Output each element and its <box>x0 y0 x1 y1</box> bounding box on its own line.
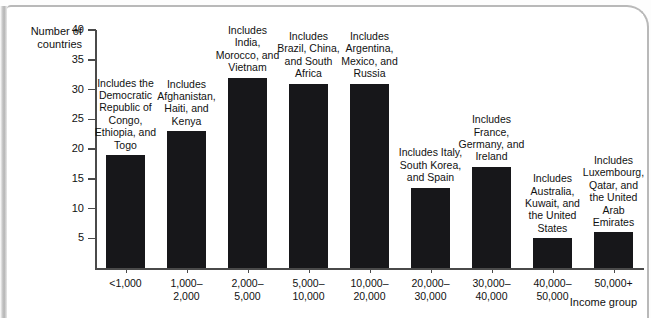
bar-annotation: Includes Italy, South Korea, and Spain <box>397 146 463 183</box>
x-axis-tick-label-line2: 5,000 <box>217 290 278 303</box>
x-axis-tick <box>126 268 128 273</box>
bar[interactable] <box>167 131 205 268</box>
bar[interactable] <box>472 167 510 268</box>
bar-annotation: Includes Argentina, Mexico, and Russia <box>336 30 402 80</box>
bar-chart: Number of countries 403530252015105 Incl… <box>0 0 651 318</box>
bar-annotation: Includes India, Morocco, and Vietnam <box>214 24 280 74</box>
x-axis-tick-label-line2: 30,000 <box>400 290 461 303</box>
x-axis-tick-label: 30,000–40,000 <box>461 277 522 302</box>
bar-annotation: Includes Australia, Kuwait, and the Unit… <box>519 172 585 234</box>
bar-group[interactable]: Includes Brazil, China, and South Africa <box>289 0 327 268</box>
y-axis-tick-label: 15 <box>58 173 84 184</box>
bar[interactable] <box>411 188 449 268</box>
x-axis-tick <box>248 268 250 273</box>
x-axis-tick <box>614 268 616 273</box>
x-axis-tick <box>309 268 311 273</box>
y-axis-tick-label: 5 <box>58 232 84 243</box>
y-axis-tick-label: 25 <box>58 113 84 124</box>
page-background: Number of countries 403530252015105 Incl… <box>0 0 651 318</box>
bar[interactable] <box>289 84 327 268</box>
bar[interactable] <box>228 78 266 268</box>
x-axis-tick-label: 2,000–5,000 <box>217 277 278 302</box>
x-axis-tick-label-line1: 30,000– <box>461 277 522 290</box>
x-axis-tick-label-line2: 10,000 <box>278 290 339 303</box>
x-axis-tick-label-line2: 2,000 <box>156 290 217 303</box>
bar-annotation: Includes Afghanistan, Haiti, and Kenya <box>153 78 219 128</box>
x-axis-tick <box>187 268 189 273</box>
bar-group[interactable]: Includes India, Morocco, and Vietnam <box>228 0 266 268</box>
bar-annotation: Includes the Democratic Republic of Cong… <box>92 77 158 151</box>
x-axis-tick <box>431 268 433 273</box>
bars-container: Includes the Democratic Republic of Cong… <box>95 30 644 268</box>
bar-annotation: Includes Luxembourg, Qatar, and the Unit… <box>580 154 646 228</box>
x-axis-tick-label: 10,000–20,000 <box>339 277 400 302</box>
bar-group[interactable]: Includes Argentina, Mexico, and Russia <box>350 0 388 268</box>
x-axis-title: Income group <box>570 296 637 308</box>
y-axis-tick-label: 20 <box>58 143 84 154</box>
x-axis-tick <box>553 268 555 273</box>
bar-group[interactable]: Includes the Democratic Republic of Cong… <box>106 0 144 268</box>
bar[interactable] <box>106 155 144 268</box>
y-axis-tick-label: 10 <box>58 203 84 214</box>
x-axis-tick <box>370 268 372 273</box>
bar[interactable] <box>533 238 571 268</box>
x-axis-tick-label-line1: 2,000– <box>217 277 278 290</box>
x-axis-tick-label: 20,000–30,000 <box>400 277 461 302</box>
bar-annotation: Includes France, Germany, and Ireland <box>458 113 524 163</box>
bar[interactable] <box>594 232 632 268</box>
y-axis-title-line2: countries <box>8 38 82 51</box>
x-axis-tick-label: 5,000–10,000 <box>278 277 339 302</box>
bar-group[interactable]: Includes Luxembourg, Qatar, and the Unit… <box>594 0 632 268</box>
x-axis-tick-label-line1: 10,000– <box>339 277 400 290</box>
x-axis-tick-label-line1: 20,000– <box>400 277 461 290</box>
y-axis-tick-label: 35 <box>58 54 84 65</box>
bar-group[interactable]: Includes Italy, South Korea, and Spain <box>411 0 449 268</box>
bar-annotation: Includes Brazil, China, and South Africa <box>275 30 341 80</box>
y-axis-tick-label: 30 <box>58 84 84 95</box>
bar-group[interactable]: Includes Afghanistan, Haiti, and Kenya <box>167 0 205 268</box>
x-axis-tick-label-line1: 50,000+ <box>583 277 644 290</box>
x-axis-tick-label-line1: 40,000– <box>522 277 583 290</box>
x-axis-tick-label-line2: 20,000 <box>339 290 400 303</box>
y-axis-tick-label: 40 <box>58 24 84 35</box>
x-axis-tick-label-line2: 40,000 <box>461 290 522 303</box>
x-axis-tick-label-line1: 5,000– <box>278 277 339 290</box>
x-axis-tick <box>492 268 494 273</box>
x-axis-tick-label-line1: <1,000 <box>95 277 156 290</box>
x-axis-tick-label-line1: 1,000– <box>156 277 217 290</box>
x-axis-tick-label: 50,000+ <box>583 277 644 290</box>
bar[interactable] <box>350 84 388 268</box>
bar-group[interactable]: Includes France, Germany, and Ireland <box>472 0 510 268</box>
x-axis-tick-label: <1,000 <box>95 277 156 290</box>
bar-group[interactable]: Includes Australia, Kuwait, and the Unit… <box>533 0 571 268</box>
x-axis-tick-label: 1,000–2,000 <box>156 277 217 302</box>
